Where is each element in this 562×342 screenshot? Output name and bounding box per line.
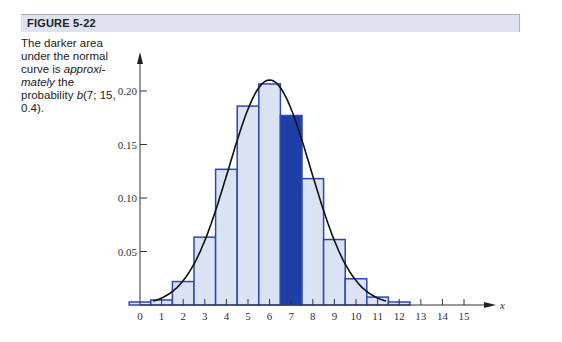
x-tick-label: 13 — [415, 310, 427, 322]
x-tick-label: 8 — [310, 310, 316, 322]
y-tick-label: 0.10 — [118, 192, 138, 204]
x-tick-label: 15 — [459, 310, 471, 322]
x-axis-label: x — [499, 299, 505, 311]
histogram-bar — [194, 237, 216, 305]
x-tick-label: 3 — [202, 310, 208, 322]
x-tick-label: 7 — [288, 310, 294, 322]
histogram-bar — [237, 106, 259, 305]
x-tick-label: 1 — [159, 310, 165, 322]
histogram-bar — [324, 240, 346, 305]
x-tick-label: 2 — [180, 310, 186, 322]
x-tick-label: 9 — [332, 310, 338, 322]
y-tick-label: 0.15 — [118, 139, 138, 151]
highlighted-bar — [280, 116, 302, 305]
histogram-bar — [302, 179, 324, 305]
x-tick-label: 10 — [351, 310, 363, 322]
x-tick-label: 14 — [437, 310, 449, 322]
x-tick-label: 4 — [224, 310, 230, 322]
y-tick-label: 0.05 — [118, 246, 138, 258]
histogram-bar — [216, 169, 238, 305]
x-tick-label: 0 — [137, 310, 143, 322]
x-tick-label: 5 — [245, 310, 251, 322]
x-tick-label: 12 — [394, 310, 405, 322]
y-axis-arrow-icon — [137, 52, 143, 64]
x-axis-arrow-icon — [484, 302, 496, 308]
x-tick-label: 6 — [267, 310, 273, 322]
x-tick-label: 11 — [372, 310, 383, 322]
binomial-histogram-chart: x01234567891011121314150.050.100.150.20 — [0, 0, 562, 342]
y-tick-label: 0.20 — [118, 85, 138, 97]
histogram-bar — [259, 84, 281, 305]
